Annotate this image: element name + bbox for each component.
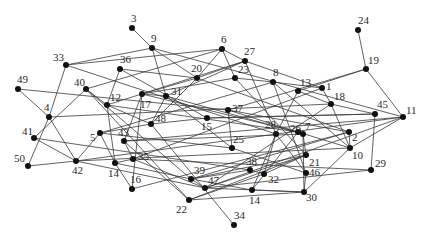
- node-label-14a: 14: [108, 167, 120, 179]
- node-label-7: 7: [305, 120, 311, 132]
- node-label-1: 1: [326, 80, 332, 92]
- network-graph: 3924196273336202381311849401731124837451…: [0, 0, 427, 239]
- node-13: [295, 88, 301, 94]
- node-label-9: 9: [151, 32, 157, 44]
- node-label-43: 43: [118, 126, 130, 138]
- node-19: [363, 66, 369, 72]
- node-label-11: 11: [406, 104, 417, 116]
- node-39: [188, 176, 194, 182]
- edge-43-35: [124, 141, 133, 159]
- node-36: [117, 66, 123, 72]
- node-label-13: 13: [300, 76, 312, 88]
- node-label-26: 26: [290, 122, 302, 134]
- node-label-47: 47: [208, 174, 220, 186]
- node-34: [231, 222, 237, 228]
- node-label-34: 34: [234, 209, 246, 221]
- node-label-46: 46: [309, 166, 321, 178]
- node-label-32: 32: [268, 173, 279, 185]
- node-label-10: 10: [352, 149, 364, 161]
- node-label-38: 38: [246, 155, 258, 167]
- node-label-29: 29: [375, 157, 387, 169]
- node-label-6: 6: [221, 33, 227, 45]
- node-label-28: 28: [265, 118, 277, 130]
- node-label-3: 3: [131, 12, 137, 24]
- node-43: [121, 138, 127, 144]
- node-45: [372, 111, 378, 117]
- node-5: [97, 130, 103, 136]
- node-label-41: 41: [22, 125, 33, 137]
- edge-6-23: [222, 49, 235, 78]
- edge-18-45: [331, 104, 375, 114]
- node-label-35: 35: [138, 150, 150, 162]
- node-label-33: 33: [53, 51, 65, 63]
- node-label-27: 27: [244, 45, 256, 57]
- node-label-16: 16: [130, 173, 142, 185]
- node-20: [194, 75, 200, 81]
- edge-40-41: [34, 89, 86, 138]
- node-label-17: 17: [140, 98, 152, 110]
- node-label-23: 23: [238, 63, 250, 75]
- edge-4-42: [49, 117, 76, 161]
- node-8: [270, 79, 276, 85]
- node-48: [148, 121, 154, 127]
- node-label-49: 49: [17, 73, 29, 85]
- node-35: [130, 156, 136, 162]
- node-label-31: 31: [171, 85, 182, 97]
- node-23: [232, 75, 238, 81]
- node-label-8: 8: [273, 66, 279, 78]
- edge-9-33: [66, 48, 152, 65]
- node-label-39: 39: [194, 164, 206, 176]
- node-25: [229, 145, 235, 151]
- node-label-4: 4: [44, 101, 50, 113]
- node-17: [139, 91, 145, 97]
- node-label-18: 18: [334, 90, 346, 102]
- node-label-2: 2: [352, 131, 358, 143]
- edge-33-4: [49, 65, 66, 117]
- node-label-24: 24: [358, 14, 370, 26]
- node-16: [129, 186, 135, 192]
- node-3: [129, 25, 135, 31]
- edge-3-9: [132, 28, 152, 48]
- node-49: [15, 86, 21, 92]
- edge-49-37: [18, 89, 228, 110]
- edge-50-42: [28, 161, 76, 166]
- node-label-15: 15: [201, 120, 213, 132]
- node-label-14b: 14: [249, 194, 261, 206]
- node-24: [355, 27, 361, 33]
- edge-24-19: [358, 30, 366, 69]
- node-50: [25, 163, 31, 169]
- node-label-45: 45: [377, 98, 389, 110]
- node-label-48: 48: [155, 112, 167, 124]
- node-label-25: 25: [233, 133, 245, 145]
- node-32: [261, 171, 267, 177]
- node-label-37: 37: [232, 102, 244, 114]
- node-28: [273, 131, 279, 137]
- edge-6-27: [222, 49, 245, 61]
- node-4: [46, 114, 52, 120]
- node-6: [219, 46, 225, 52]
- node-label-42: 42: [72, 164, 83, 176]
- node-label-36: 36: [120, 53, 132, 65]
- node-label-22: 22: [176, 203, 187, 215]
- node-label-40: 40: [74, 76, 86, 88]
- node-1: [319, 85, 325, 91]
- edge-11-10: [350, 117, 403, 148]
- node-label-19: 19: [368, 54, 380, 66]
- node-14a: [112, 160, 118, 166]
- node-31: [163, 93, 169, 99]
- node-label-50: 50: [14, 152, 26, 164]
- node-label-5: 5: [90, 131, 96, 143]
- node-37: [225, 107, 231, 113]
- node-38: [247, 167, 253, 173]
- node-29: [368, 167, 374, 173]
- node-14b: [249, 187, 255, 193]
- node-label-20: 20: [191, 62, 203, 74]
- node-9: [149, 45, 155, 51]
- node-label-30: 30: [306, 191, 318, 203]
- node-label-12: 12: [110, 91, 121, 103]
- edge-14b-30: [252, 190, 304, 192]
